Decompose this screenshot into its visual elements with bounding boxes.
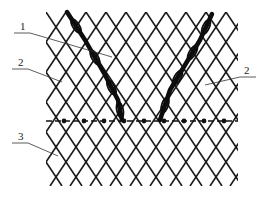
mesh-twine (166, 12, 262, 186)
diamond-mesh (0, 12, 262, 186)
leader-line (30, 33, 112, 57)
mesh-twine (0, 12, 6, 186)
mesh-twine (0, 12, 26, 186)
mesh-twine (0, 12, 46, 186)
knot-dot (142, 119, 147, 124)
mesh-twine (0, 12, 86, 186)
mesh-twine (0, 12, 106, 186)
mesh-twine (0, 12, 2, 186)
leader-line (28, 69, 62, 82)
mesh-twine (0, 12, 42, 186)
mesh-twine (206, 12, 262, 186)
label-2-left: 2 (18, 56, 24, 68)
mesh-twine (0, 12, 82, 186)
knot-dot (182, 119, 187, 124)
knot-dot (62, 119, 67, 124)
label-3: 3 (18, 130, 24, 142)
label-2-right: 2 (244, 64, 250, 76)
knot-dot (82, 119, 87, 124)
mesh-twine (230, 12, 262, 186)
mesh-twine (226, 12, 262, 186)
mesh-twine (0, 12, 22, 186)
mesh-twine (250, 12, 262, 186)
label-1: 1 (20, 20, 26, 32)
mesh-twine (246, 12, 262, 186)
knot-dot (222, 119, 227, 124)
netting-diagram: 1223 (0, 0, 262, 203)
mesh-twine (210, 12, 262, 186)
knot-dot (102, 119, 107, 124)
mesh-twine (0, 12, 62, 186)
mesh-twine (0, 12, 66, 186)
knot-dot (202, 119, 207, 124)
